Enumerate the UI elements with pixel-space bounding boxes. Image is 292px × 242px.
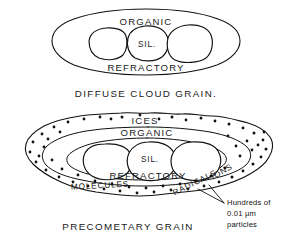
particle [61, 168, 64, 171]
precometary-label-silicate: SIL. [141, 155, 159, 164]
particle [214, 120, 217, 123]
particle [242, 170, 245, 173]
particle [242, 127, 245, 130]
particle [29, 151, 32, 154]
particle [153, 191, 156, 194]
particle [260, 156, 263, 159]
precometary-label-refractory: REFRACTORY [109, 170, 186, 181]
particle [265, 148, 268, 151]
particle [83, 118, 86, 121]
particle [218, 181, 221, 184]
particle [32, 141, 35, 144]
particle [41, 133, 44, 136]
particle [263, 131, 266, 134]
particle [35, 161, 38, 164]
particle [110, 118, 113, 121]
particle [119, 190, 122, 193]
particle [77, 174, 80, 177]
particle [235, 145, 238, 148]
particle [251, 149, 254, 152]
particle [200, 117, 203, 120]
particle [58, 176, 61, 179]
particle [67, 121, 70, 124]
annotation-line-2: 0.01 µm [227, 209, 256, 218]
diffuse-label-silicate: SIL. [138, 40, 156, 49]
diffuse-label-organic: ORGANIC [120, 16, 173, 27]
particle [171, 116, 174, 119]
particle [121, 116, 124, 119]
particle [47, 138, 50, 141]
precometary-grain-group: ICES ORGANIC SIL. REFRACTORY MOLECULES R… [25, 113, 272, 232]
particle [246, 140, 249, 143]
particle [203, 185, 206, 188]
particle [253, 132, 256, 135]
particle [227, 135, 230, 138]
particle [53, 126, 56, 129]
particle [43, 146, 46, 149]
particle [136, 192, 139, 195]
annotation-line-1: Hundreds of [227, 198, 271, 207]
annotation-line-3: particles [227, 220, 257, 229]
diffuse-cloud-grain-group: ORGANIC SIL. REFRACTORY DIFFUSE CLOUD GR… [52, 9, 240, 99]
particle [252, 163, 255, 166]
precometary-label-ices: ICES [132, 115, 159, 126]
particle [45, 169, 48, 172]
particle [228, 123, 231, 126]
particle [231, 176, 234, 179]
diffuse-label-refractory: REFRACTORY [107, 62, 184, 73]
particle [38, 155, 41, 158]
precometary-grain-caption: PRECOMETARY GRAIN [62, 221, 193, 232]
diffuse-silicate-blob-right [167, 25, 212, 63]
precometary-label-organic: ORGANIC [121, 127, 174, 138]
particle [262, 139, 265, 142]
particle [162, 185, 165, 188]
interstellar-grain-diagram: ORGANIC SIL. REFRACTORY DIFFUSE CLOUD GR… [0, 0, 292, 242]
particle [239, 155, 242, 158]
particle [257, 144, 260, 147]
diffuse-silicate-blob-left [89, 28, 127, 60]
particle [99, 116, 102, 119]
particle [59, 131, 62, 134]
particle [145, 187, 148, 190]
particle [185, 119, 188, 122]
diffuse-cloud-grain-caption: DIFFUSE CLOUD GRAIN. [75, 88, 217, 99]
particle [51, 159, 54, 162]
